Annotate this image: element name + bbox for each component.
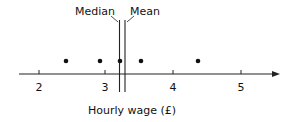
data-point (98, 59, 103, 64)
axis-arrow-icon (272, 71, 280, 77)
tick-label-3: 3 (102, 81, 109, 94)
tick-label-5: 5 (238, 81, 245, 94)
tick-label-2: 2 (36, 81, 43, 94)
data-point (196, 59, 201, 64)
x-axis-label: Hourly wage (£) (88, 104, 176, 117)
median-label: Median (75, 5, 115, 18)
tick-label-4: 4 (170, 81, 177, 94)
dot-plot: 2 3 4 5 Median Mean Hourly wage (£) (0, 0, 293, 122)
data-point (64, 59, 69, 64)
data-point (139, 59, 144, 64)
mean-label: Mean (130, 5, 160, 18)
data-point (118, 59, 123, 64)
